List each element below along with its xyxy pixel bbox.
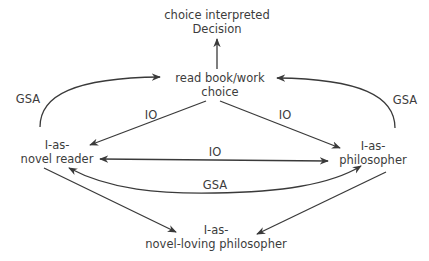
arrow-gsa-right [277, 78, 395, 128]
node-philosopher-line1: I-as- [339, 139, 406, 153]
node-decision: choice interpreted Decision [164, 8, 269, 36]
node-philosopher: I-as- philosopher [339, 139, 406, 167]
edge-label-io-middle: IO [209, 145, 221, 159]
node-nlp-line2: novel-loving philosopher [145, 237, 286, 251]
node-choice-line2: choice [175, 85, 264, 99]
node-choice-line1: read book/work [175, 71, 264, 85]
node-novel-loving-philosopher: I-as- novel-loving philosopher [145, 223, 286, 251]
edge-label-gsa-left: GSA [16, 92, 40, 106]
node-choice: read book/work choice [175, 71, 264, 99]
node-decision-line1: choice interpreted [164, 8, 269, 22]
node-novel-reader-line2: novel reader [21, 152, 94, 166]
node-decision-line2: Decision [164, 22, 269, 36]
arrow-io-middle [100, 159, 328, 161]
diagram-canvas: choice interpreted Decision read book/wo… [0, 0, 429, 261]
edge-label-gsa-bottom: GSA [203, 178, 227, 192]
edge-label-io-right: IO [279, 108, 291, 122]
arrow-gsa-left [40, 77, 160, 127]
node-novel-reader: I-as- novel reader [21, 138, 94, 166]
node-philosopher-line2: philosopher [339, 153, 406, 167]
node-novel-reader-line1: I-as- [21, 138, 94, 152]
edge-label-io-left: IO [145, 108, 157, 122]
node-nlp-line1: I-as- [145, 223, 286, 237]
edge-label-gsa-right: GSA [393, 93, 417, 107]
diagram-edges [0, 0, 429, 261]
